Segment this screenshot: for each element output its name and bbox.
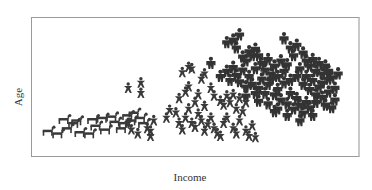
adult-icon: [254, 94, 263, 106]
x-axis-label: Income: [160, 171, 220, 183]
adult-icon: [264, 97, 273, 109]
child-icon: [150, 115, 158, 126]
child-icon: [226, 97, 234, 108]
child-icon: [235, 115, 243, 126]
child-icon: [184, 103, 192, 114]
child-icon: [175, 93, 183, 104]
child-icon: [191, 97, 199, 108]
marks-layer: [43, 28, 343, 142]
adult-icon: [232, 41, 241, 53]
adult-icon: [206, 57, 215, 69]
child-icon: [200, 125, 208, 136]
child-icon: [178, 124, 186, 135]
adult-icon: [308, 109, 317, 121]
y-axis-label: Age: [12, 82, 26, 112]
child-icon: [137, 88, 145, 99]
adult-icon: [279, 32, 288, 44]
plot-frame: [31, 17, 360, 157]
adult-icon: [295, 114, 304, 126]
child-icon: [242, 97, 250, 108]
dog-icon: [135, 113, 148, 123]
child-icon: [197, 115, 205, 126]
child-icon: [200, 101, 208, 112]
child-icon: [137, 77, 145, 88]
child-icon: [232, 103, 240, 114]
child-icon: [162, 112, 170, 123]
child-icon: [134, 128, 142, 139]
child-icon: [124, 82, 132, 93]
plot-area: [32, 18, 358, 156]
adult-icon: [289, 49, 298, 61]
